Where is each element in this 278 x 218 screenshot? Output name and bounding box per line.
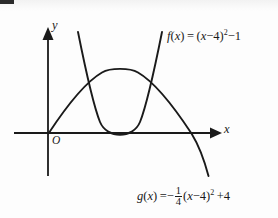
curve-f-upward-parabola — [78, 32, 162, 135]
g-fraction-one-quarter: 1 4 — [175, 186, 182, 208]
g-tail-constant: 4 — [224, 189, 230, 203]
y-axis-label: y — [52, 18, 58, 33]
g-tail-plus: + — [217, 189, 224, 203]
g-fraction-denominator: 4 — [175, 196, 182, 208]
x-axis-arrowhead — [210, 128, 222, 139]
f-tail-operator: − — [228, 29, 235, 43]
f-equation-label: f(x) = (x−4)2−1 — [167, 28, 241, 44]
g-equation-label: g(x) =− 1 4 (x−4)2 +4 — [137, 186, 230, 208]
parabola-figure: y x O f(x) = (x−4)2−1 g(x) =− 1 4 (x−4)2… — [0, 0, 278, 218]
g-paren-close-var: ) — [153, 189, 160, 203]
g-inner-minus: − — [193, 189, 200, 203]
curve-g-downward-parabola — [49, 69, 209, 176]
g-leading-sign: − — [167, 189, 174, 203]
origin-label: O — [52, 134, 60, 146]
g-fraction-numerator: 1 — [175, 186, 182, 197]
f-paren-close-var: ) — [180, 29, 187, 43]
g-equals: = — [160, 189, 167, 203]
x-axis-label: x — [224, 122, 230, 137]
f-tail-constant: 1 — [235, 29, 241, 43]
f-equals: = — [187, 29, 194, 43]
